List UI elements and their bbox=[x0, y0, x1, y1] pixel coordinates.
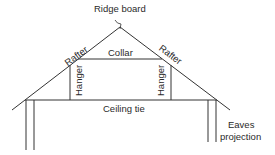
right-rafter bbox=[120, 27, 230, 110]
eaves-projection-label-line2: projection bbox=[220, 132, 261, 142]
left-rafter bbox=[12, 27, 120, 110]
ridge-pointer bbox=[115, 20, 121, 29]
ridge-board-label: Ridge board bbox=[94, 4, 146, 14]
right-hanger-label: Hanger bbox=[156, 65, 166, 96]
collar-label: Collar bbox=[108, 48, 133, 58]
roof-diagram: Ridge board Rafter Rafter Collar Hanger … bbox=[0, 0, 275, 155]
ceiling-tie-label: Ceiling tie bbox=[103, 104, 145, 114]
left-hanger-label: Hanger bbox=[74, 65, 84, 96]
eaves-projection-label-line1: Eaves bbox=[228, 120, 254, 130]
